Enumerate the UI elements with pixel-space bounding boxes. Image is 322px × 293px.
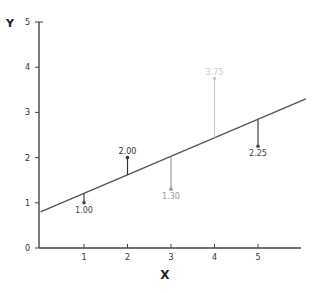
chart-svg: 012345 12345 1.002.001.303.752.25 Y X — [0, 0, 322, 293]
point-label: 2.00 — [119, 147, 137, 156]
y-ticks: 012345 — [25, 18, 39, 253]
y-tick-label: 5 — [25, 18, 30, 27]
y-tick-label: 1 — [25, 199, 30, 208]
data-point — [126, 156, 130, 160]
y-tick-label: 3 — [25, 108, 30, 117]
x-tick-label: 5 — [255, 253, 260, 262]
point-label: 2.25 — [249, 149, 267, 158]
y-tick-label: 2 — [25, 154, 30, 163]
x-ticks: 12345 — [81, 244, 260, 262]
y-tick-label: 0 — [25, 244, 30, 253]
data-point — [82, 201, 86, 205]
x-tick-label: 1 — [81, 253, 86, 262]
x-tick-label: 4 — [212, 253, 217, 262]
data-point — [169, 187, 173, 191]
point-label: 1.00 — [75, 206, 93, 215]
y-axis-label: Y — [5, 17, 15, 30]
data-points: 1.002.001.303.752.25 — [75, 68, 267, 215]
point-label: 3.75 — [206, 68, 224, 77]
data-point — [213, 77, 217, 81]
x-axis-label: X — [160, 268, 170, 282]
data-point — [256, 145, 260, 149]
point-label: 1.30 — [162, 192, 180, 201]
y-tick-label: 4 — [25, 63, 30, 72]
x-tick-label: 2 — [125, 253, 130, 262]
regression-residual-chart: 012345 12345 1.002.001.303.752.25 Y X — [0, 0, 322, 293]
x-tick-label: 3 — [168, 253, 173, 262]
residual-lines — [84, 79, 258, 203]
